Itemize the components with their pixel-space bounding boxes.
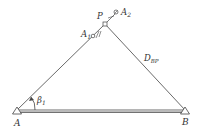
- line-b-p: [105, 24, 185, 110]
- label-p: P: [96, 11, 103, 21]
- label-a2: A2: [120, 7, 131, 18]
- label-angle-beta1: β1: [36, 95, 46, 106]
- label-b: B: [181, 117, 189, 127]
- label-a: A: [13, 118, 21, 128]
- point-p-marker: [103, 22, 107, 26]
- label-distance-bp: DBP: [143, 53, 159, 64]
- label-a1: A1: [80, 29, 91, 40]
- baseline-ab: [19, 110, 184, 113]
- point-a1-marker: [91, 34, 95, 38]
- survey-diagram: A B P A1 A2 DBP β1: [0, 0, 204, 140]
